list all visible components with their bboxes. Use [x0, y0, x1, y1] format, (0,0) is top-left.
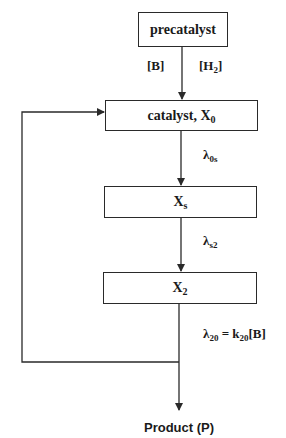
catalyst-label: catalyst, X0 — [148, 108, 216, 124]
catalyst-box: catalyst, X0 — [105, 100, 258, 131]
precatalyst-label: precatalyst — [150, 22, 216, 38]
rate-lambda-0s-label: λ0s — [203, 147, 217, 163]
rate-lambda-s2-label: λs2 — [203, 233, 217, 249]
arrow-feedback-loop — [22, 112, 179, 362]
precatalyst-box: precatalyst — [138, 12, 228, 47]
reagent-h2-label: [H2] — [199, 58, 222, 74]
x2-box: X2 — [103, 272, 257, 304]
reagent-b-label: [B] — [147, 58, 164, 74]
product-label: Product (P) — [144, 420, 214, 435]
xs-box: Xs — [104, 186, 257, 218]
connector-lines — [0, 0, 286, 438]
rate-lambda-20-label: λ20 = k20[B] — [203, 326, 266, 342]
x2-label: X2 — [172, 280, 187, 296]
xs-label: Xs — [173, 194, 187, 210]
